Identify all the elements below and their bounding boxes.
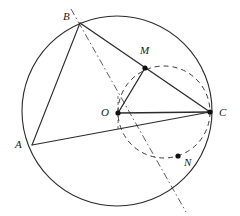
point-label-a: A (15, 139, 22, 150)
geometry-canvas (0, 0, 240, 216)
axis-line-through-M-and-N (71, 9, 186, 212)
point-dot-o (115, 110, 120, 115)
point-label-b: B (63, 11, 70, 22)
construction-lines (71, 9, 186, 212)
segment-A-C (32, 112, 210, 145)
geometry-figure: ABCMNO (0, 0, 240, 216)
segment-O-M (118, 68, 145, 113)
point-label-m: M (140, 45, 149, 56)
segment-A-B (32, 23, 80, 145)
point-dot-c (207, 109, 212, 114)
point-label-c: C (219, 107, 226, 118)
point-dot-n (175, 153, 180, 158)
point-label-o: O (101, 107, 109, 118)
segment-O-C (118, 112, 210, 113)
point-dot-m (142, 65, 147, 70)
segments-group (32, 23, 210, 145)
point-label-n: N (184, 157, 191, 168)
